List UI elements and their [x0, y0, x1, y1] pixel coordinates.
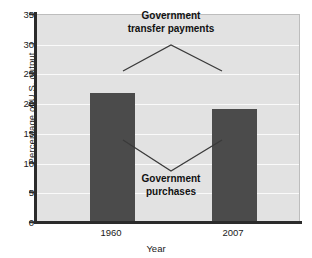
bar-1960: [90, 93, 135, 221]
gridline: [37, 45, 299, 46]
annotation-purchases: Government purchases: [142, 173, 201, 198]
annotation-line-2: purchases: [142, 186, 201, 199]
gridline: [37, 74, 299, 75]
y-axis-tick-labels: 0 5 10 15 20 25 30 35: [8, 0, 34, 258]
y-axis-line: [34, 12, 37, 224]
annotation-line-1: Government: [128, 10, 215, 23]
x-tick-label-2007: 2007: [222, 227, 243, 238]
bar-chart-figure: Percentage of U.S. output 0 5 10 15 20 2…: [0, 0, 312, 258]
bar-2007: [212, 109, 257, 221]
gridline: [37, 104, 299, 105]
annotation-line-2: transfer payments: [128, 23, 215, 36]
x-axis-line: [34, 221, 302, 224]
gridline: [37, 134, 299, 135]
annotation-line-1: Government: [142, 173, 201, 186]
gridline: [37, 164, 299, 165]
annotation-transfer-payments: Government transfer payments: [128, 10, 215, 35]
x-axis-title: Year: [0, 243, 312, 254]
x-tick-label-1960: 1960: [100, 227, 121, 238]
